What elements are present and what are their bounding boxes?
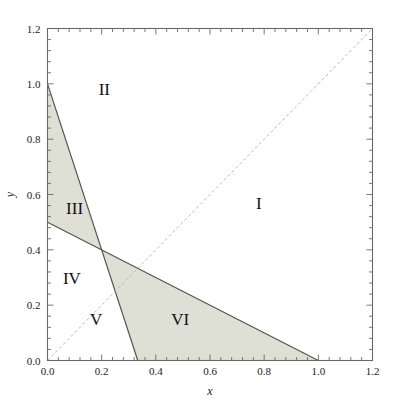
x-tick-label: 0.2 — [95, 365, 109, 377]
x-axis-title: x — [206, 384, 213, 398]
x-tick-label: 0.8 — [257, 365, 271, 377]
chart-figure: 0.00.20.40.60.81.01.2 0.00.20.40.60.81.0… — [0, 0, 395, 412]
y-tick-label: 0.2 — [27, 299, 41, 311]
x-tick-label: 1.0 — [311, 365, 325, 377]
y-tick-label: 0.4 — [27, 244, 41, 256]
y-tick-label: 0.0 — [27, 355, 41, 367]
y-axis-title: y — [3, 191, 17, 198]
x-tick-label: 0.6 — [203, 365, 217, 377]
region-label-I: I — [256, 194, 262, 213]
y-tick-label: 1.0 — [27, 78, 41, 90]
x-tick-label: 0.0 — [41, 365, 55, 377]
y-tick-label: 1.2 — [27, 23, 41, 35]
region-plot-svg: 0.00.20.40.60.81.01.2 0.00.20.40.60.81.0… — [0, 0, 395, 412]
x-tick-label: 1.2 — [366, 365, 380, 377]
region-label-II: II — [99, 80, 111, 99]
x-tick-label: 0.4 — [149, 365, 163, 377]
region-label-VI: VI — [171, 310, 189, 329]
region-label-III: III — [66, 199, 83, 218]
region-label-IV: IV — [63, 269, 82, 288]
y-tick-label: 0.6 — [27, 189, 41, 201]
region-label-V: V — [90, 310, 103, 329]
y-tick-label: 0.8 — [27, 133, 41, 145]
